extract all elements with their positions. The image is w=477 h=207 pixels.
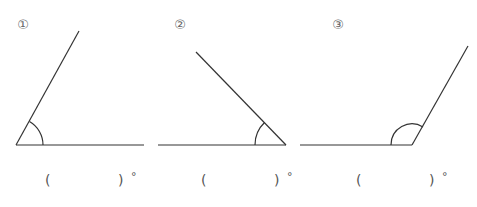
degree-symbol: ° <box>287 170 293 183</box>
problem-label-3: ③ <box>330 17 346 33</box>
degree-symbol: ° <box>131 170 137 183</box>
angle-figure-1 <box>16 31 144 145</box>
close-paren: ) <box>429 172 434 188</box>
close-paren: ) <box>274 172 279 188</box>
open-paren: ( <box>45 172 50 188</box>
angle-figure-2 <box>158 52 286 145</box>
open-paren: ( <box>201 172 206 188</box>
problem-label-2: ② <box>172 17 188 33</box>
close-paren: ) <box>118 172 123 188</box>
open-paren: ( <box>356 172 361 188</box>
problem-label-1: ① <box>15 17 31 33</box>
angle-figure-3 <box>300 46 468 145</box>
degree-symbol: ° <box>442 170 448 183</box>
angle-figures <box>0 0 477 207</box>
